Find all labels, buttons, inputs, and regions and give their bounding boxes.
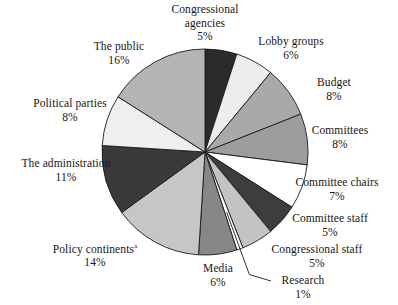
pie-label-name: Policy continentsa	[53, 240, 137, 256]
pie-slices-group	[102, 49, 308, 255]
pie-label-name: Congressional	[171, 3, 238, 17]
pie-label-name: Political parties	[33, 97, 107, 111]
pie-label-name: Budget	[317, 76, 351, 90]
pie-label-percent: 5%	[292, 226, 368, 240]
pie-label-percent: 16%	[94, 54, 145, 68]
pie-label-percent: 5%	[171, 30, 238, 44]
pie-label-name: Media	[203, 262, 233, 276]
pie-label-percent: 7%	[295, 190, 378, 204]
pie-label-percent: 5%	[272, 257, 363, 271]
pie-label-name: Committees	[312, 124, 369, 138]
pie-label-percent: 1%	[282, 288, 325, 302]
pie-label-name: The administration	[22, 157, 111, 171]
pie-label-name: Research	[282, 274, 325, 288]
pie-label-percent: 8%	[317, 90, 351, 104]
pie-label-percent: 6%	[258, 49, 323, 63]
pie-label-name: Lobby groups	[258, 35, 323, 49]
pie-chart-figure: Congressionalagencies5%Lobby groups6%Bud…	[0, 0, 398, 305]
pie-label-name: Committee staff	[292, 212, 368, 226]
footnote-marker: a	[134, 242, 137, 250]
pie-label-name: Congressional staff	[272, 243, 363, 257]
pie-label-percent: 14%	[53, 256, 137, 270]
pie-label-name: The public	[94, 40, 145, 54]
pie-label-percent: 8%	[312, 138, 369, 152]
pie-label-percent: 8%	[33, 111, 107, 125]
pie-label-name: agencies	[171, 17, 238, 31]
pie-label-percent: 11%	[22, 171, 111, 185]
pie-label-percent: 6%	[203, 276, 233, 290]
pie-label-name: Committee chairs	[295, 176, 378, 190]
